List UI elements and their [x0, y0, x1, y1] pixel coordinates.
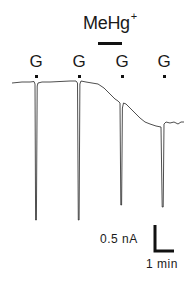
- scale-bar-time-label: 1 min: [146, 257, 178, 271]
- scale-bar: [0, 0, 193, 281]
